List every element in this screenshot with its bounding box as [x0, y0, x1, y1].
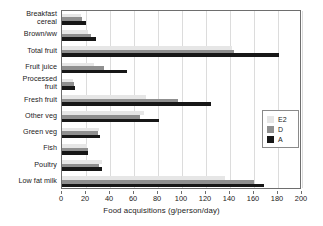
y-axis-label-line: Low fat milk: [0, 177, 57, 185]
bar-track: [62, 151, 300, 155]
y-axis-label-line: Brown/ww: [0, 30, 57, 38]
x-axis-tick-label: 0: [59, 194, 63, 203]
y-axis-label: Fruit juice: [0, 63, 57, 71]
bar-track: [62, 184, 300, 188]
gridline: [302, 11, 303, 188]
bar-a: [62, 37, 96, 41]
y-axis-label-line: fruit: [0, 83, 57, 91]
legend-swatch-icon: [267, 136, 274, 143]
bar-group: [62, 27, 300, 43]
legend-label: A: [278, 136, 283, 143]
y-axis-label-line: Fruit juice: [0, 63, 57, 71]
bar-a: [62, 135, 100, 139]
bar-a: [62, 21, 86, 25]
y-axis-label: Processedfruit: [0, 75, 57, 90]
y-axis-label: Total fruit: [0, 47, 57, 55]
x-axis-tick-label: 40: [105, 194, 113, 203]
bar-group: [62, 11, 300, 27]
legend-item[interactable]: A: [267, 134, 295, 144]
y-axis-label: Green veg: [0, 128, 57, 136]
bar-a: [62, 151, 88, 155]
x-axis-tick-label: 60: [129, 194, 137, 203]
y-axis-label-line: Poultry: [0, 161, 57, 169]
bar-track: [62, 53, 300, 57]
bar-track: [62, 102, 300, 106]
x-axis-tick-label: 80: [153, 194, 161, 203]
bar-a: [62, 53, 279, 57]
bar-track: [62, 86, 300, 90]
plot-area: [61, 10, 301, 189]
bar-group: [62, 174, 300, 190]
legend-item[interactable]: D: [267, 124, 295, 134]
y-axis-label: Low fat milk: [0, 177, 57, 185]
x-axis-tick-label: 200: [295, 194, 307, 203]
legend-item[interactable]: E2: [267, 114, 295, 124]
x-axis-tick-label: 160: [247, 194, 259, 203]
bar-a: [62, 102, 211, 106]
x-axis-title: Food acquisitions (g/person/day): [0, 206, 323, 215]
y-axis-label: Poultry: [0, 161, 57, 169]
bar-group: [62, 60, 300, 76]
y-axis-label: Other veg: [0, 112, 57, 120]
bar-chart: BreakfastcerealBrown/wwTotal fruitFruit …: [0, 0, 323, 226]
y-axis-label-line: cereal: [0, 18, 57, 26]
legend: E2DA: [262, 110, 299, 148]
bar-group: [62, 44, 300, 60]
legend-label: E2: [278, 116, 287, 123]
y-axis-label-line: Total fruit: [0, 47, 57, 55]
bar-a: [62, 86, 75, 90]
bar-a: [62, 119, 159, 123]
y-axis-label-line: Other veg: [0, 112, 57, 120]
y-axis-label: Breakfastcereal: [0, 10, 57, 25]
bar-a: [62, 184, 264, 188]
x-axis-tick-label: 100: [175, 194, 187, 203]
bar-group: [62, 92, 300, 108]
bar-track: [62, 167, 300, 171]
bar-group: [62, 76, 300, 92]
y-axis-label: Fish: [0, 144, 57, 152]
bar-group: [62, 157, 300, 173]
legend-label: D: [278, 126, 283, 133]
x-axis-tick-label: 120: [199, 194, 211, 203]
bar-track: [62, 21, 300, 25]
bar-a: [62, 167, 102, 171]
y-axis-label: Brown/ww: [0, 30, 57, 38]
bar-track: [62, 70, 300, 74]
y-axis-label-line: Green veg: [0, 128, 57, 136]
legend-swatch-icon: [267, 126, 274, 133]
x-axis-tick-label: 140: [223, 194, 235, 203]
y-axis-label: Fresh fruit: [0, 96, 57, 104]
y-axis-label-line: Fresh fruit: [0, 96, 57, 104]
bar-a: [62, 70, 127, 74]
x-axis-tick-label: 180: [271, 194, 283, 203]
x-axis-tick-label: 20: [81, 194, 89, 203]
legend-swatch-icon: [267, 116, 274, 123]
y-axis-label-line: Fish: [0, 144, 57, 152]
bar-track: [62, 37, 300, 41]
